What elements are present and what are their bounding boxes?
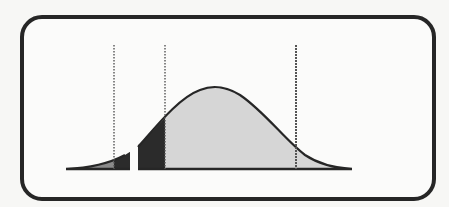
innovators-area [66, 60, 114, 170]
area-under-curve [66, 60, 355, 170]
chasm-gap [130, 130, 138, 171]
majority-area [165, 60, 355, 170]
early-adopters-area-left [114, 60, 130, 170]
adoption-curve-chart [0, 0, 449, 207]
early-adopters-area-right [138, 60, 165, 170]
